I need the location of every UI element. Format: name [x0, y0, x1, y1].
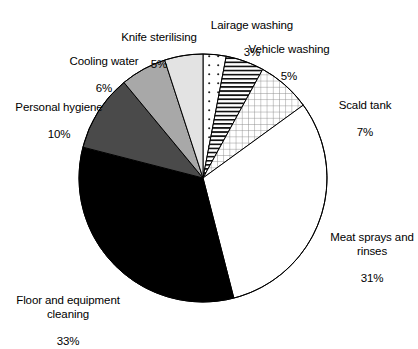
slice-label-name: Knife sterilising — [104, 31, 214, 44]
slice-label-floor-and-equipment-cleaning: Floor and equipment cleaning 33% — [2, 281, 134, 349]
slice-label-scald-tank: Scald tank 7% — [317, 72, 413, 152]
slice-label-name: Meat sprays and rinses — [327, 231, 417, 258]
slice-label-percent: 10% — [3, 128, 115, 141]
slice-label-name: Floor and equipment cleaning — [2, 294, 134, 321]
slice-label-percent: 31% — [327, 272, 417, 285]
slice-label-meat-sprays-and-rinses: Meat sprays and rinses 31% — [327, 218, 417, 298]
slice-label-knife-sterilising: Knife sterilising 5% — [104, 18, 214, 85]
slice-label-name: Vehicle washing — [227, 43, 351, 56]
slice-label-percent: 33% — [2, 335, 134, 348]
slice-label-percent: 7% — [317, 126, 413, 139]
slice-label-name: Scald tank — [317, 99, 413, 112]
slice-label-percent: 5% — [104, 58, 214, 71]
